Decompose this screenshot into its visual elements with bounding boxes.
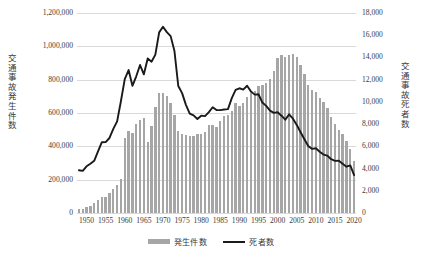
x-tick-2010: 2010 — [308, 216, 323, 225]
right-tick-4000: 4,000 — [362, 164, 379, 173]
x-tick-1955: 1955 — [98, 216, 113, 225]
legend-item-deaths: 死者数 — [223, 236, 274, 247]
right-tick-16000: 16,000 — [362, 30, 383, 39]
right-tick-8000: 8,000 — [362, 119, 379, 128]
line-swatch-icon — [223, 241, 245, 243]
gridline — [77, 213, 356, 214]
right-axis-title: 交通事故死者数 — [399, 62, 408, 129]
left-tick-800000: 800,000 — [0, 75, 73, 84]
bar-swatch-icon — [148, 239, 170, 244]
x-tick-1985: 1985 — [213, 216, 228, 225]
traffic-accident-chart: 交通事故発生件数 交通事故死者数 0200,000400,000600,0008… — [0, 0, 422, 256]
chart-legend: 発生件数 死者数 — [0, 236, 422, 247]
x-tick-1990: 1990 — [232, 216, 247, 225]
x-tick-2020: 2020 — [346, 216, 361, 225]
deaths-line-svg — [77, 13, 356, 213]
left-axis-title: 交通事故発生件数 — [6, 54, 15, 131]
left-tick-400000: 400,000 — [0, 141, 73, 150]
x-tick-1975: 1975 — [175, 216, 190, 225]
legend-item-accidents: 発生件数 — [148, 236, 208, 247]
left-tick-200000: 200,000 — [0, 175, 73, 184]
legend-label-accidents: 発生件数 — [174, 236, 208, 247]
right-tick-10000: 10,000 — [362, 97, 383, 106]
right-tick-12000: 12,000 — [362, 75, 383, 84]
right-tick-0: 0 — [362, 208, 366, 217]
left-tick-1200000: 1,200,000 — [0, 8, 73, 17]
right-tick-6000: 6,000 — [362, 141, 379, 150]
right-tick-14000: 14,000 — [362, 52, 383, 61]
plot-area — [77, 13, 356, 213]
right-tick-2000: 2,000 — [362, 186, 379, 195]
x-tick-1995: 1995 — [251, 216, 266, 225]
x-tick-1980: 1980 — [194, 216, 209, 225]
x-tick-1965: 1965 — [136, 216, 151, 225]
x-axis-tick-labels: 1950195519601965197019751980198519901995… — [77, 216, 356, 228]
left-tick-0: 0 — [0, 208, 73, 217]
x-tick-1970: 1970 — [155, 216, 170, 225]
x-tick-1950: 1950 — [79, 216, 94, 225]
legend-label-deaths: 死者数 — [249, 236, 274, 247]
x-tick-2000: 2000 — [270, 216, 285, 225]
x-tick-2005: 2005 — [289, 216, 304, 225]
x-tick-2015: 2015 — [327, 216, 342, 225]
left-tick-1000000: 1,000,000 — [0, 41, 73, 50]
x-tick-1960: 1960 — [117, 216, 132, 225]
left-tick-600000: 600,000 — [0, 108, 73, 117]
deaths-line-path — [79, 27, 354, 175]
line-series-死者数 — [77, 13, 356, 213]
right-tick-18000: 18,000 — [362, 8, 383, 17]
